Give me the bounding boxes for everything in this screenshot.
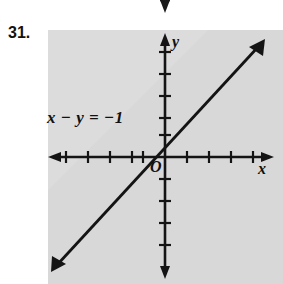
figure-page: 31.: [0, 0, 283, 284]
origin-label: O: [150, 158, 162, 176]
y-axis-label: y: [172, 33, 179, 51]
coordinate-graph: [0, 0, 283, 284]
x-axis-label: x: [258, 160, 266, 178]
equation-label: x − y = −1: [47, 108, 124, 128]
